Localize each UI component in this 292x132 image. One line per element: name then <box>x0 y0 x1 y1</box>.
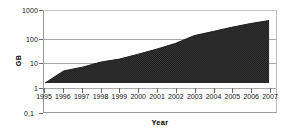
chart-figure: GB 1000 100 10 1 0,1 <box>0 0 292 132</box>
y-tick-label-10: 10 <box>6 60 38 67</box>
y-tick-mark-0-1 <box>39 113 43 114</box>
x-axis-title: Year <box>43 118 277 127</box>
y-tick-label-100: 100 <box>6 36 38 43</box>
x-axis-labels: 1995199619971998199920002001200220032004… <box>0 93 292 103</box>
y-tick-label-0-1: 0,1 <box>2 110 34 117</box>
y-tick-label-1: 1 <box>6 85 38 92</box>
y-tick-label-1000: 1000 <box>6 7 38 14</box>
x-tick-label-2007: 2007 <box>257 93 283 101</box>
